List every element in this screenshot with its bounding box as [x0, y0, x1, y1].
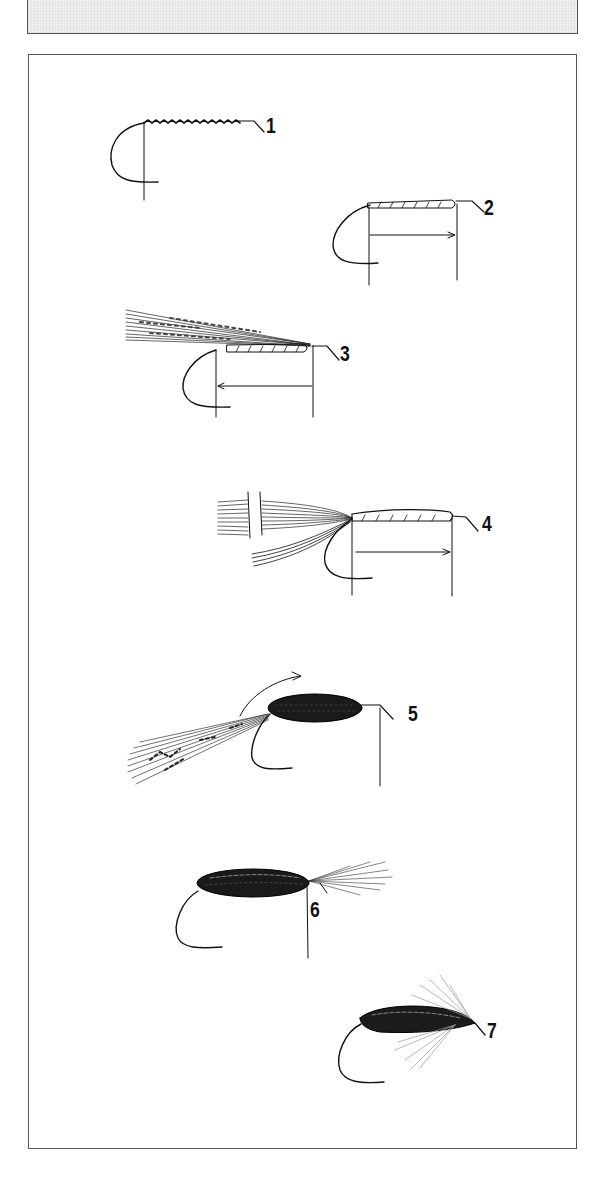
step-3-tail-fibers-tied: [126, 310, 339, 417]
step-5-herl-body-wrapped: [128, 672, 393, 786]
step-number-2: 2: [484, 197, 494, 219]
step-2-hook-underbody: [333, 200, 484, 285]
step-7-finished-fly: [339, 975, 485, 1083]
step-number-6: 6: [310, 899, 320, 921]
step-number-1: 1: [266, 115, 276, 137]
step-number-7: 7: [487, 1020, 497, 1042]
step-number-4: 4: [482, 513, 492, 535]
fly-tying-steps-illustration: [0, 0, 589, 1190]
step-4-herl-and-wire-tied: [218, 492, 478, 596]
step-number-3: 3: [340, 343, 350, 365]
step-number-5: 5: [408, 703, 418, 725]
step-6-wing-hackle-tied: [176, 862, 392, 958]
step-1-hook-thread-wrapped: [111, 120, 264, 200]
